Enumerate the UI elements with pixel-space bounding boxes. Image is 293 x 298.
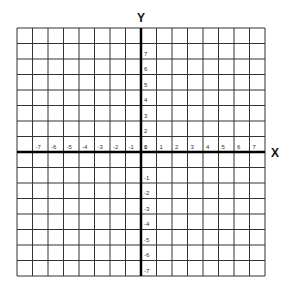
y-axis-label: Y [137, 11, 145, 25]
y-tick-label: -1 [144, 175, 150, 181]
x-tick-label: -7 [36, 144, 42, 150]
y-tick-label: -3 [144, 206, 150, 212]
y-tick-label: 2 [144, 128, 148, 134]
x-tick-label: 4 [206, 144, 210, 150]
y-tick-label: -5 [144, 237, 150, 243]
y-tick-label: -2 [144, 190, 150, 196]
x-tick-label: -3 [98, 144, 104, 150]
y-tick-label: 5 [144, 82, 148, 88]
y-tick-label: 7 [144, 51, 148, 57]
y-tick-label: 1 [144, 144, 148, 150]
x-tick-label: -4 [82, 144, 88, 150]
x-tick-label: 5 [222, 144, 226, 150]
y-tick-label: -7 [144, 268, 150, 274]
x-axis-label: X [271, 146, 279, 160]
y-tick-label: 4 [144, 97, 148, 103]
x-tick-label: -5 [67, 144, 73, 150]
coordinate-grid: -7-6-5-4-3-2-1012345677654321-1-2-3-4-5-… [0, 0, 293, 298]
x-tick-label: 6 [237, 144, 241, 150]
x-tick-label: 3 [191, 144, 195, 150]
y-tick-label: 6 [144, 66, 148, 72]
x-tick-label: 7 [253, 144, 257, 150]
x-tick-label: -2 [113, 144, 119, 150]
x-tick-label: 2 [175, 144, 179, 150]
y-tick-label: -4 [144, 221, 150, 227]
y-tick-label: -6 [144, 252, 150, 258]
x-tick-label: -6 [51, 144, 57, 150]
y-tick-label: 3 [144, 113, 148, 119]
x-tick-label: -1 [129, 144, 135, 150]
x-tick-label: 1 [160, 144, 164, 150]
